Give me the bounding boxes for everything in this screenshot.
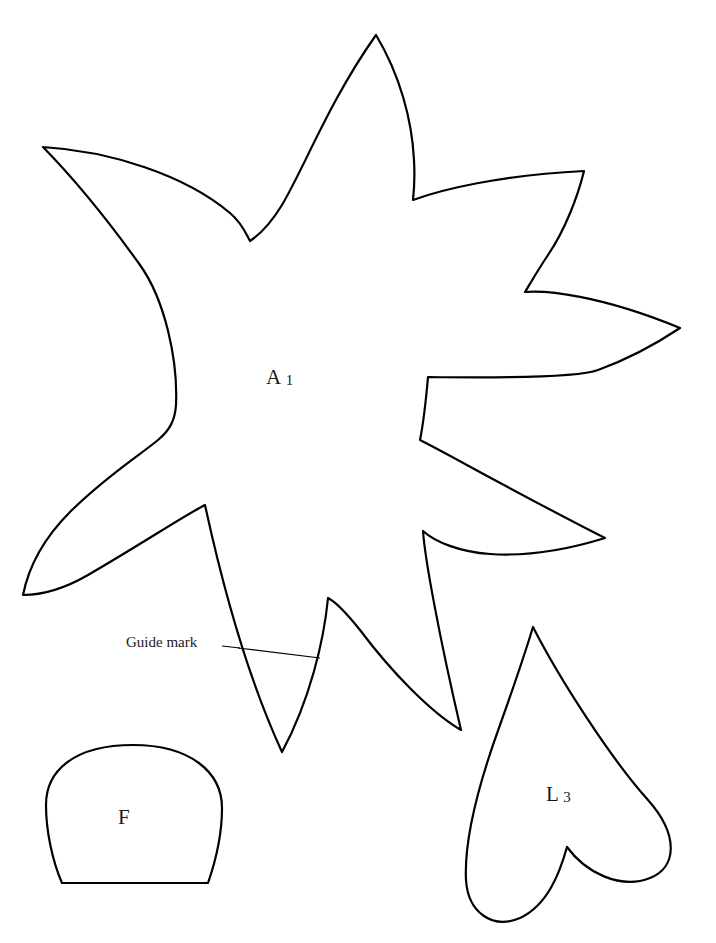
piece-label-l3-letter: L [546, 782, 559, 806]
piece-outline-l3[interactable] [466, 627, 671, 922]
guide-mark-leader-line [222, 646, 240, 648]
piece-label-f-letter: F [118, 805, 130, 829]
guide-mark-label: Guide mark [126, 634, 197, 651]
pattern-sheet: A1 F L3 Guide mark [0, 0, 716, 943]
piece-label-a1: A1 [266, 365, 293, 390]
piece-outline-a1[interactable] [23, 35, 680, 752]
pattern-canvas [0, 0, 716, 943]
piece-label-f: F [118, 805, 134, 830]
piece-label-a1-letter: A [266, 365, 282, 389]
piece-label-a1-numeral: 1 [286, 372, 294, 388]
piece-label-l3: L3 [546, 782, 571, 807]
piece-label-l3-numeral: 3 [563, 789, 571, 805]
